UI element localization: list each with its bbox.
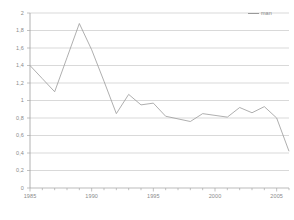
y-tick-label: 1,8	[2, 27, 24, 33]
x-tick-label: 2000	[200, 193, 230, 199]
y-tick-label: 1,4	[2, 62, 24, 68]
y-tick-label: 0,2	[2, 167, 24, 173]
y-tick-label: 2	[2, 10, 24, 16]
y-tick-label: 0,8	[2, 115, 24, 121]
y-tick-label: 1	[2, 97, 24, 103]
gridlines	[30, 13, 289, 188]
legend: man	[248, 10, 272, 16]
line-chart: 00,20,40,60,811,21,41,61,82 198519901995…	[0, 0, 294, 220]
series-line-man	[30, 24, 289, 152]
y-tick-label: 0	[2, 185, 24, 191]
data-series-group	[30, 24, 289, 152]
chart-canvas	[0, 0, 294, 220]
legend-label-man: man	[261, 10, 272, 16]
x-axis-ticks	[27, 13, 289, 192]
y-tick-label: 0,4	[2, 150, 24, 156]
x-tick-label: 1985	[15, 193, 45, 199]
x-tick-label: 1990	[77, 193, 107, 199]
legend-swatch-man	[248, 13, 259, 14]
x-tick-label: 2005	[262, 193, 292, 199]
y-tick-label: 0,6	[2, 132, 24, 138]
y-tick-label: 1,2	[2, 80, 24, 86]
x-tick-label: 1995	[138, 193, 168, 199]
y-tick-label: 1,6	[2, 45, 24, 51]
